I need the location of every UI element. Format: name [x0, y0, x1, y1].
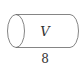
cylinder-diagram: V 8 — [0, 0, 80, 69]
cylinder-left-face — [8, 15, 25, 48]
volume-label: V — [40, 24, 51, 39]
length-label: 8 — [41, 52, 49, 66]
cylinder-right-edge — [70, 15, 79, 48]
